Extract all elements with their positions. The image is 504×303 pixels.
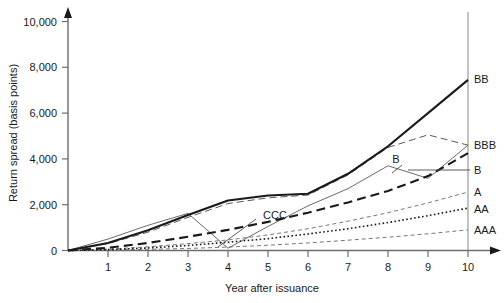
x-tick-group: 1 2 3 4 5 6 7 8 9 10	[105, 251, 474, 274]
x-tick-label-10: 10	[462, 261, 474, 273]
x-tick-label-8: 8	[385, 261, 391, 273]
y-tick-label-4000: 4,000	[29, 153, 57, 165]
series-line-AAA	[68, 230, 468, 251]
y-axis-arrow-icon	[64, 7, 72, 18]
ccc-leader-line	[218, 219, 256, 247]
x-tick-label-3: 3	[185, 261, 191, 273]
series-label-BBB: BBB	[474, 139, 496, 151]
y-tick-label-10000: 10,000	[23, 16, 57, 28]
series-line-CCC	[68, 145, 468, 250]
series-label-BB: BB	[474, 73, 489, 85]
x-axis-arrow-icon	[490, 247, 501, 255]
y-tick-label-6000: 6,000	[29, 107, 57, 119]
annotation-b-label: B	[392, 153, 399, 165]
y-tick-label-2000: 2,000	[29, 199, 57, 211]
y-tick-label-0: 0	[51, 245, 57, 257]
return-spread-line-chart: 0 2,000 4,000 6,000 8,000 10,000 1 2 3 4…	[0, 0, 504, 303]
annotation-ccc-label: CCC	[263, 209, 287, 221]
series-line-BB	[68, 80, 468, 251]
series-line-BBB	[68, 135, 468, 251]
annotation-group: CCC B	[218, 153, 402, 247]
y-axis-title: Return spread (basis points)	[7, 64, 19, 202]
x-axis-title: Year after issuance	[225, 282, 319, 294]
series-label-AAA: AAA	[474, 224, 497, 236]
series-end-labels: BB BBB B A AA AAA	[408, 73, 497, 236]
series-layer	[68, 80, 468, 251]
series-label-A: A	[474, 186, 482, 198]
x-tick-label-2: 2	[145, 261, 151, 273]
series-label-AA: AA	[474, 203, 489, 215]
y-tick-label-8000: 8,000	[29, 61, 57, 73]
x-tick-label-6: 6	[305, 261, 311, 273]
y-tick-group: 0 2,000 4,000 6,000 8,000 10,000	[23, 16, 68, 257]
b-annotation-leader-line	[392, 165, 402, 173]
series-label-B: B	[474, 164, 481, 176]
x-tick-label-5: 5	[265, 261, 271, 273]
chart-plot-area: 0 2,000 4,000 6,000 8,000 10,000 1 2 3 4…	[0, 0, 504, 303]
x-tick-label-1: 1	[105, 261, 111, 273]
x-tick-label-7: 7	[345, 261, 351, 273]
x-tick-label-4: 4	[225, 261, 231, 273]
x-tick-label-9: 9	[425, 261, 431, 273]
